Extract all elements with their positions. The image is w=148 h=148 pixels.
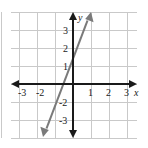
y-tick-label-pos2: 2 xyxy=(63,44,68,54)
y-tick-label-pos1: 1 xyxy=(63,62,68,72)
x-axis-label: x xyxy=(134,88,138,98)
x-tick-label-pos2: 2 xyxy=(106,88,111,98)
line-segment xyxy=(47,21,88,129)
y-tick-label-neg3: -3 xyxy=(59,116,67,126)
x-tick-label-pos1: 1 xyxy=(88,88,93,98)
y-tick-label-pos3: 3 xyxy=(63,26,68,36)
y-axis-arrowhead-top xyxy=(69,12,77,20)
y-axis-label: y xyxy=(78,13,82,23)
y-axis-arrowhead-bottom xyxy=(69,130,77,138)
x-tick-label-neg2: -2 xyxy=(36,88,44,98)
x-tick-label-neg3: -3 xyxy=(18,88,26,98)
x-tick-label-pos3: 3 xyxy=(124,88,129,98)
coordinate-plane-figure: -3 -2 1 2 3 3 2 1 -2 -3 x y xyxy=(0,0,148,148)
y-axis xyxy=(69,12,77,138)
y-tick-label-neg2: -2 xyxy=(59,98,67,108)
grid-lines xyxy=(1,12,137,138)
graph-canvas xyxy=(0,0,148,148)
